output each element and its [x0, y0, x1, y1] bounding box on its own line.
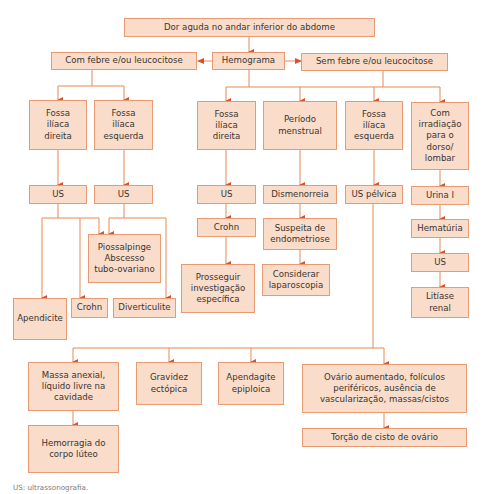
hematuria-node: Hematúria [411, 219, 469, 238]
crohn-left-node: Crohn [71, 298, 108, 318]
sem-febre-node: Sem febre e/ou leucocitose [301, 53, 448, 71]
cf-us-left-node: US [29, 185, 87, 204]
urina-node: Urina I [411, 186, 469, 205]
irradiacao-node: Com irradiação para o dorso/ lombar [411, 102, 469, 170]
com-febre-node: Com febre e/ou leucocitose [51, 52, 197, 70]
us-right-node: US [411, 253, 469, 272]
sf-fossa-direita-node: Fossa ilíaca direita [197, 101, 256, 150]
massa-anexial-node: Massa anexial, líquido livre na cavidade [28, 362, 119, 411]
diverticulite-node: Diverticulite [113, 298, 176, 318]
apendagite-node: Apendagite epiploica [218, 362, 284, 405]
cf-fossa-direita-node: Fossa ilíaca direita [29, 100, 87, 150]
sf-fossa-esquerda-node: Fossa ilíaca esquerda [345, 101, 403, 150]
ovario-aumentado-node: Ovário aumentado, folículos periféricos,… [302, 364, 467, 413]
sf-us-node: US [197, 185, 256, 204]
suspeita-endometriose-node: Suspeita de endometriose [263, 218, 337, 250]
cf-us-right-node: US [94, 185, 153, 204]
gravidez-ectopica-node: Gravidez ectópica [136, 362, 202, 405]
dismenorreia-node: Dismenorreia [263, 185, 337, 204]
cf-fossa-esquerda-node: Fossa ilíaca esquerda [94, 100, 153, 150]
connector-lines [0, 0, 483, 494]
considerar-laparoscopia-node: Considerar laparoscopia [262, 264, 330, 296]
apendicite-node: Apendicite [13, 298, 67, 340]
torcao-node: Torção de cisto de ovário [302, 428, 467, 447]
prosseguir-node: Prosseguir investigação específica [181, 264, 255, 313]
hemorragia-node: Hemorragia do corpo lúteo [28, 425, 119, 473]
piossalpinge-node: Piossalpinge Abscesso tubo-ovariano [88, 234, 161, 283]
periodo-menstrual-node: Período menstrual [263, 101, 337, 150]
crohn-mid-node: Crohn [197, 218, 256, 237]
hemograma-node: Hemograma [212, 52, 285, 70]
root-node: Dor aguda no andar inferior do abdome [124, 18, 375, 37]
us-pelvica-node: US pélvica [345, 185, 403, 204]
litiase-renal-node: Litíase renal [411, 287, 469, 318]
footnote: US: ultrassonografia. [13, 483, 88, 492]
